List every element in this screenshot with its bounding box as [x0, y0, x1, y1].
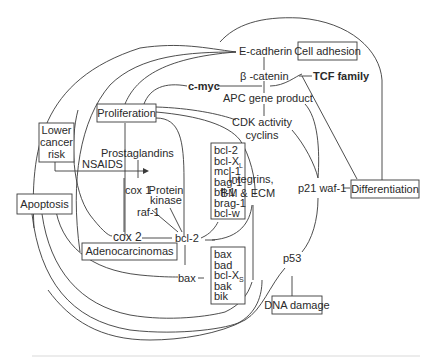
node-adenocarcinomas[interactable]: Adenocarcinomas	[82, 243, 177, 260]
adenocarcinomas-label: Adenocarcinomas	[85, 245, 174, 257]
lower-cancer-risk-line-2: cancer	[40, 136, 73, 148]
footer-divider	[32, 355, 420, 357]
proliferation-label: Proliferation	[97, 107, 156, 119]
p53-label: p53	[283, 252, 301, 264]
apc-label: APC gene product	[223, 92, 313, 104]
raf1-label: raf-1	[137, 206, 160, 218]
apoptosis-label: Apoptosis	[20, 198, 69, 210]
edge-p53-loop	[48, 268, 285, 340]
edge-curve-to-cox2	[74, 110, 112, 236]
cdk-label-line-2: cyclins	[245, 129, 279, 141]
edge-cdk-p21	[292, 130, 318, 178]
cox1-label: cox 1	[125, 184, 151, 196]
integrins-label-line-2: BM & ECM	[221, 187, 275, 199]
lower-cancer-risk-line-1: Lower	[42, 124, 72, 136]
edge-cmyc-proliferation	[144, 85, 187, 104]
bcl2-label: bcl-2	[175, 232, 199, 244]
edges	[32, 18, 382, 340]
node-proliferation[interactable]: Proliferation	[97, 104, 156, 122]
node-apoptosis[interactable]: Apoptosis	[17, 194, 72, 214]
beta-catenin-label: β -catenin	[240, 70, 289, 82]
edge-kinase-bcl2	[170, 208, 182, 232]
pathway-diagram: Cell adhesion Proliferation Lower cancer…	[0, 0, 433, 364]
e-cadherin-label: E-cadherin	[239, 45, 292, 57]
p21-label: p21 waf-1	[298, 182, 346, 194]
protein-kinase-label-line-2: kinase	[150, 194, 182, 206]
cell-adhesion-label: Cell adhesion	[294, 45, 361, 57]
node-cell-adhesion[interactable]: Cell adhesion	[294, 42, 361, 60]
integrins-label-line-1: Integrins,	[228, 173, 273, 185]
edge-bcl2-antiapoptotic	[201, 222, 218, 238]
edge-apc-p21	[305, 104, 319, 178]
node-differentiation[interactable]: Differentiation	[351, 180, 419, 198]
pro-apoptotic-list[interactable]: baxbadbcl-XSbakbik	[211, 247, 245, 304]
anti-apoptotic-item: bcl-w	[214, 207, 240, 219]
cox2-label: cox 2	[113, 230, 142, 244]
edge-proliferation-to-ecadherin	[125, 52, 236, 104]
nsaids-arrowhead	[143, 168, 149, 174]
lower-cancer-risk-line-3: risk	[48, 148, 66, 160]
cdk-label-line-1: CDK activity	[232, 116, 292, 128]
differentiation-label: Differentiation	[351, 183, 419, 195]
tcf-family-label: TCF family	[313, 70, 370, 82]
node-dna-damage[interactable]: DNA damage	[264, 296, 329, 314]
nsaids-label: NSAIDS	[82, 158, 123, 170]
bax-label: bax	[178, 272, 196, 284]
edge-proliferation-bcl2	[156, 118, 184, 236]
pro-apoptotic-item: bik	[214, 290, 229, 302]
node-lower-cancer-risk[interactable]: Lower cancer risk	[39, 123, 74, 162]
c-myc-label: c-myc	[188, 80, 220, 92]
edge-p21-p53	[302, 198, 318, 252]
dna-damage-label: DNA damage	[264, 299, 329, 311]
